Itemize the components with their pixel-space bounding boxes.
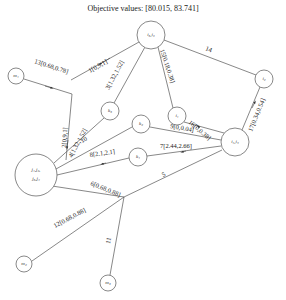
- edge-label-6: 6[0.68,0.88]: [89, 179, 122, 198]
- edge-label-17: 17[0.34,0.54]: [246, 97, 267, 133]
- edge-12: [32, 197, 124, 261]
- edge-11: [110, 197, 124, 275]
- svg-text:k₂: k₂: [139, 121, 143, 126]
- node-k1: k₁: [129, 148, 147, 166]
- svg-text:i₂: i₂: [262, 76, 265, 81]
- node-i4-i5: i₄,i₅: [221, 128, 249, 156]
- node-k2: k₂: [132, 115, 150, 133]
- node-m2: m₂: [16, 256, 32, 272]
- svg-text:k₃: k₃: [108, 108, 112, 113]
- edge-label-8: 8[2.1,2.1]: [89, 148, 115, 159]
- node-i2: i₂: [255, 70, 273, 88]
- edge-label-1: 1[0,9,1]: [87, 58, 109, 75]
- network-diagram: 1[0,9,1] 13[0.68,0.78] 2[0,9,1] 3[1.32,1…: [0, 0, 286, 300]
- node-j1-j4: j₁,j₂,j₃,j₄: [15, 154, 57, 196]
- edge-label-14: 14: [205, 44, 214, 53]
- edge-label-7: 7[2.44,2.66]: [160, 142, 192, 150]
- svg-text:i₁: i₁: [175, 113, 178, 118]
- edge-8: [57, 158, 129, 175]
- svg-text:m₃: m₃: [105, 280, 111, 285]
- edge-label-11: 11: [104, 237, 112, 244]
- edge-label-15: 15[0.18,0.38]: [158, 48, 176, 84]
- node-m1: m₁: [8, 68, 24, 84]
- edge-label-5: 5: [160, 170, 166, 178]
- node-i3-i6: i₃,i₆: [137, 21, 165, 49]
- edge-label-4: 4[1.32,1.52]: [67, 127, 89, 159]
- svg-text:m₂: m₂: [21, 261, 27, 266]
- node-k3: k₃: [101, 102, 119, 120]
- edge-3: [114, 47, 145, 103]
- edge-13: [24, 79, 72, 94]
- node-m3: m₃: [100, 275, 116, 291]
- edge-label-13: 13[0.68,0.78]: [33, 57, 69, 75]
- svg-text:m₁: m₁: [13, 73, 19, 78]
- node-i1: i₁: [168, 107, 186, 125]
- svg-text:k₁: k₁: [136, 154, 140, 159]
